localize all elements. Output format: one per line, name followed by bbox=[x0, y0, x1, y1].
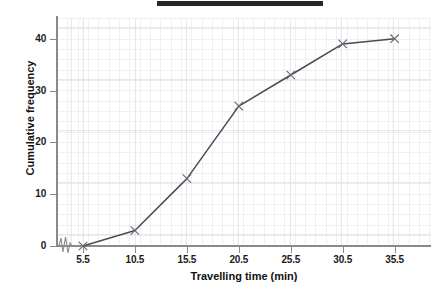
x-tick-label: 10.5 bbox=[112, 254, 158, 265]
y-axis-title: Cumulative frequency bbox=[24, 28, 36, 208]
x-tick-mark bbox=[395, 247, 396, 253]
x-tick-label: 30.5 bbox=[320, 254, 366, 265]
y-tick-label: 20 bbox=[0, 136, 46, 147]
y-tick-mark bbox=[50, 91, 57, 92]
title-redaction-bar bbox=[157, 1, 323, 6]
y-tick-label: 10 bbox=[0, 188, 46, 199]
y-tick-mark bbox=[50, 39, 57, 40]
x-tick-mark bbox=[187, 247, 188, 253]
x-tick-mark bbox=[291, 247, 292, 253]
x-axis-line bbox=[57, 245, 431, 247]
cumulative-frequency-chart: 010203040 5.510.515.520.525.530.535.5 Cu… bbox=[0, 0, 439, 288]
y-tick-label: 30 bbox=[0, 85, 46, 96]
plot-area bbox=[57, 18, 431, 246]
x-tick-label: 15.5 bbox=[164, 254, 210, 265]
x-tick-mark bbox=[135, 247, 136, 253]
y-tick-label: 40 bbox=[0, 33, 46, 44]
y-tick-mark bbox=[50, 142, 57, 143]
x-tick-mark bbox=[343, 247, 344, 253]
x-axis-title: Travelling time (min) bbox=[57, 270, 431, 282]
x-tick-label: 35.5 bbox=[372, 254, 418, 265]
y-tick-mark bbox=[50, 194, 57, 195]
y-axis-line bbox=[56, 16, 58, 247]
x-tick-mark bbox=[83, 247, 84, 253]
x-tick-label: 5.5 bbox=[60, 254, 106, 265]
x-tick-mark bbox=[239, 247, 240, 253]
y-tick-mark bbox=[50, 246, 57, 247]
major-gridlines bbox=[57, 18, 431, 246]
x-tick-label: 25.5 bbox=[268, 254, 314, 265]
y-tick-label: 0 bbox=[0, 240, 46, 251]
x-tick-label: 20.5 bbox=[216, 254, 262, 265]
